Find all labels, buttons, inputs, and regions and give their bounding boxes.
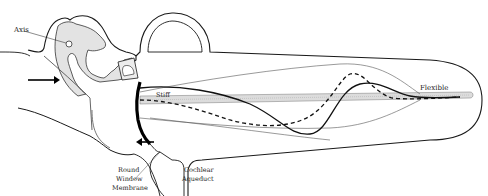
- label-flexible: Flexible: [420, 84, 448, 92]
- axis-point: [66, 41, 72, 47]
- label-round-window-1: Round: [118, 166, 139, 174]
- traveling-waves: [140, 74, 460, 140]
- input-arrow: [28, 76, 60, 84]
- label-round-window-2: Window: [116, 175, 143, 183]
- label-stiff: Stiff: [156, 91, 171, 99]
- cochlea-diagram: Axis Stiff Flexible Round Window Membran…: [0, 0, 488, 196]
- label-axis: Axis: [13, 26, 29, 34]
- label-cochlear-aqueduct-1: Cochlear: [184, 166, 215, 174]
- label-cochlear-aqueduct-2: Aqueduct: [181, 175, 214, 183]
- ossicles: [24, 16, 138, 96]
- label-round-window-3: Membrane: [112, 184, 148, 192]
